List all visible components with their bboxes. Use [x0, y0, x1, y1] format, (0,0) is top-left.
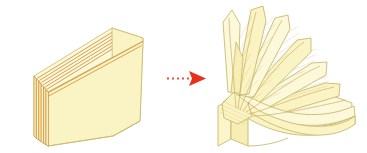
lamination-slab: [44, 87, 46, 145]
left-laminated-block: [34, 28, 143, 146]
curved-base-bottom-edge: [248, 138, 288, 146]
lamination-slab: [46, 90, 48, 147]
right-fanned-assembly: [218, 6, 355, 146]
arrow-head-icon: [189, 71, 206, 86]
figure-canvas: Laminated block splayed into a fanned cu…: [0, 0, 367, 153]
lamination-slab: [39, 82, 41, 142]
diagram-svg: [0, 0, 367, 153]
lamination-slab: [36, 79, 38, 140]
lamination-slab: [34, 76, 36, 139]
lamination-slab: [41, 84, 43, 143]
transformation-arrow: [167, 71, 206, 86]
